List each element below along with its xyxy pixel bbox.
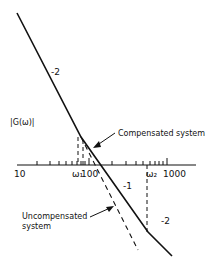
slope-label-middle: -1 — [123, 181, 132, 191]
uncompensated-label-line2: system — [22, 222, 51, 231]
slope-label-bottom: -2 — [161, 216, 170, 226]
uncompensated-annotation: Uncompensated system — [22, 206, 114, 231]
bode-plot-diagram: 10 ω₁ 100 ω₂ 1000 |G(ω)| -2 -1 -2 Compen… — [0, 0, 217, 263]
y-axis-label: |G(ω)| — [10, 118, 35, 127]
tick-label-omega2: ω₂ — [146, 169, 158, 179]
tick-label-100: 100 — [81, 169, 98, 179]
arrowhead-icon — [93, 141, 101, 148]
break-frequency-guides — [78, 137, 147, 232]
slope-label-top: -2 — [51, 67, 60, 77]
tick-label-10: 10 — [14, 169, 26, 179]
compensated-annotation: Compensated system — [93, 129, 205, 148]
tick-label-1000: 1000 — [163, 169, 186, 179]
uncompensated-system-curve — [81, 137, 138, 250]
uncompensated-label-line1: Uncompensated — [22, 212, 87, 221]
compensated-label: Compensated system — [118, 129, 205, 138]
frequency-axis: 10 ω₁ 100 ω₂ 1000 — [14, 158, 196, 179]
